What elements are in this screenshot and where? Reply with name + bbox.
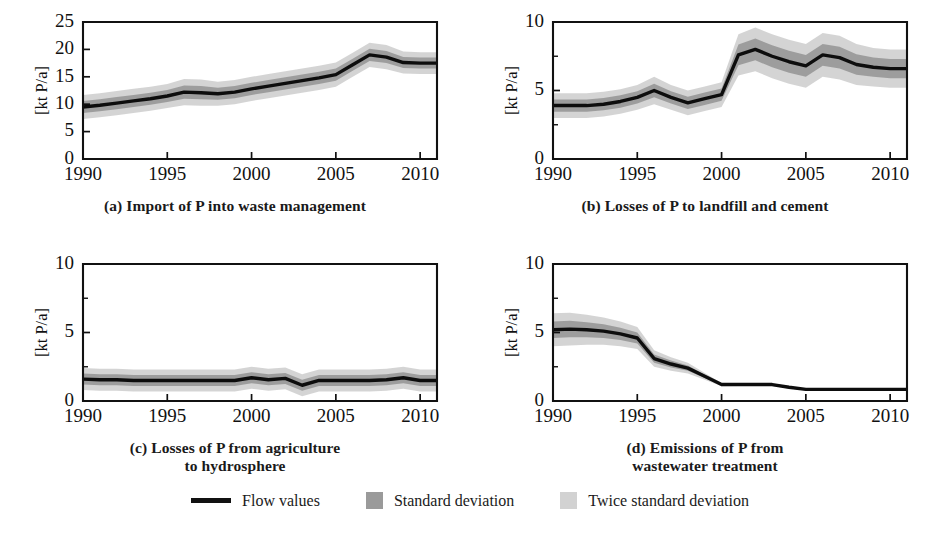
svg-text:5: 5 [65, 320, 75, 341]
svg-text:2000: 2000 [233, 405, 271, 426]
svg-text:2005: 2005 [787, 405, 825, 426]
svg-text:5: 5 [535, 320, 545, 341]
svg-text:15: 15 [55, 65, 74, 86]
svg-text:2005: 2005 [317, 405, 355, 426]
svg-text:2010: 2010 [401, 163, 439, 184]
chart-svg-c: 051019901995200020052010[kt P/a] [25, 250, 445, 435]
legend-label-standard-deviation: Standard deviation [394, 493, 514, 509]
panel-caption-c: (c) Losses of P from agriculture to hydr… [25, 439, 445, 476]
svg-text:2010: 2010 [871, 405, 909, 426]
plot-area-a: 051015202519901995200020052010[kt P/a] [25, 8, 445, 193]
plot-area-b: 051019901995200020052010[kt P/a] [495, 8, 915, 193]
legend-item-standard-deviation: Standard deviation [366, 492, 514, 509]
svg-text:2010: 2010 [871, 163, 909, 184]
svg-text:10: 10 [55, 92, 74, 113]
svg-text:10: 10 [525, 252, 544, 273]
svg-text:5: 5 [65, 119, 75, 140]
svg-text:2000: 2000 [233, 163, 271, 184]
svg-text:20: 20 [55, 37, 74, 58]
legend-swatch-icon-twice-standard-deviation [560, 492, 577, 509]
svg-text:1990: 1990 [64, 163, 102, 184]
svg-text:1990: 1990 [534, 405, 572, 426]
panel-caption-d-line2: wastewater treatment [495, 457, 915, 475]
legend-line-icon [191, 498, 231, 503]
svg-text:25: 25 [55, 10, 74, 31]
panel-caption-b: (b) Losses of P to landfill and cement [495, 197, 915, 215]
chart-panel-a: 051015202519901995200020052010[kt P/a] (… [0, 0, 470, 232]
legend-item-flow-values: Flow values [191, 493, 320, 509]
chart-panel-b: 051019901995200020052010[kt P/a] (b) Los… [470, 0, 940, 232]
plot-area-d: 051019901995200020052010[kt P/a] [495, 250, 915, 435]
svg-text:2005: 2005 [787, 163, 825, 184]
legend-label-flow-values: Flow values [242, 493, 320, 509]
svg-text:2005: 2005 [317, 163, 355, 184]
legend-swatch-icon-standard-deviation [366, 492, 383, 509]
svg-text:1990: 1990 [64, 405, 102, 426]
chart-panel-d: 051019901995200020052010[kt P/a] (d) Emi… [470, 232, 940, 490]
svg-text:10: 10 [525, 10, 544, 31]
panel-caption-a: (a) Import of P into waste management [25, 197, 445, 215]
svg-text:[kt P/a]: [kt P/a] [32, 66, 51, 115]
svg-text:[kt P/a]: [kt P/a] [502, 308, 521, 357]
plot-area-c: 051019901995200020052010[kt P/a] [25, 250, 445, 435]
svg-text:1995: 1995 [618, 163, 656, 184]
panel-grid: 051015202519901995200020052010[kt P/a] (… [0, 0, 940, 490]
svg-text:1995: 1995 [148, 163, 186, 184]
svg-text:1995: 1995 [148, 405, 186, 426]
svg-text:2010: 2010 [401, 405, 439, 426]
svg-text:2000: 2000 [703, 163, 741, 184]
svg-text:1990: 1990 [534, 163, 572, 184]
svg-text:[kt P/a]: [kt P/a] [502, 66, 521, 115]
svg-text:[kt P/a]: [kt P/a] [32, 308, 51, 357]
svg-text:10: 10 [55, 252, 74, 273]
chart-svg-b: 051019901995200020052010[kt P/a] [495, 8, 915, 193]
panel-caption-d-line1: (d) Emissions of P from [495, 439, 915, 457]
figure-phosphorus-flows: 051015202519901995200020052010[kt P/a] (… [0, 0, 940, 557]
chart-svg-a: 051015202519901995200020052010[kt P/a] [25, 8, 445, 193]
svg-text:2000: 2000 [703, 405, 741, 426]
svg-text:1995: 1995 [618, 405, 656, 426]
svg-text:5: 5 [535, 78, 545, 99]
chart-legend: Flow values Standard deviation Twice sta… [0, 492, 940, 509]
chart-svg-d: 051019901995200020052010[kt P/a] [495, 250, 915, 435]
chart-panel-c: 051019901995200020052010[kt P/a] (c) Los… [0, 232, 470, 490]
legend-label-twice-standard-deviation: Twice standard deviation [588, 493, 749, 509]
panel-caption-c-line2: to hydrosphere [25, 457, 445, 475]
legend-item-twice-standard-deviation: Twice standard deviation [560, 492, 749, 509]
panel-caption-c-line1: (c) Losses of P from agriculture [25, 439, 445, 457]
panel-caption-d: (d) Emissions of P from wastewater treat… [495, 439, 915, 476]
